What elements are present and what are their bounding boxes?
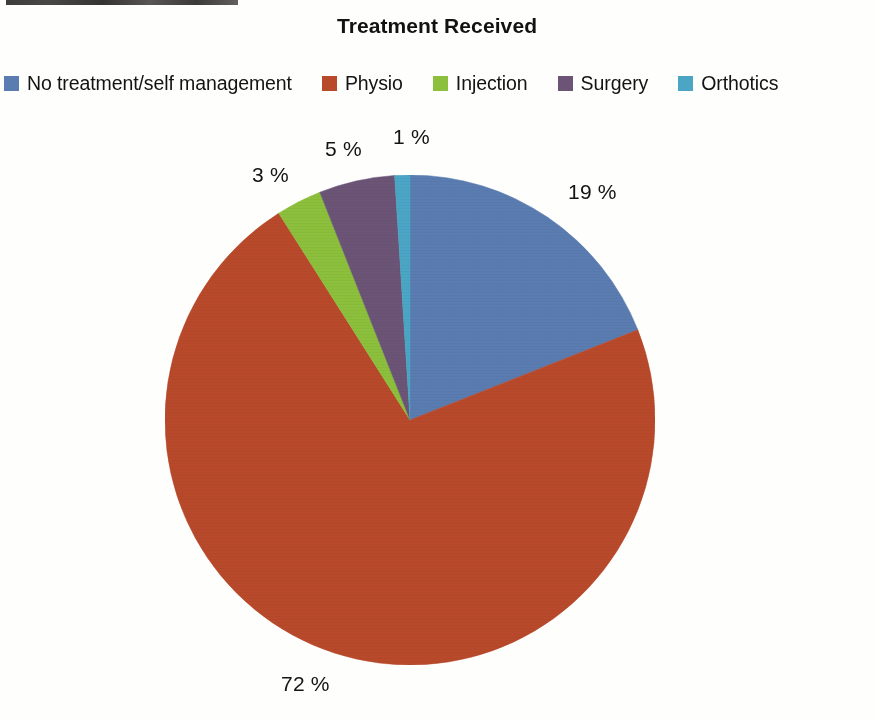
pie-chart-figure: Treatment Received No treatment/self man… xyxy=(0,0,874,719)
legend-swatch-physio xyxy=(322,76,337,91)
legend-item-injection[interactable]: Injection xyxy=(433,72,528,95)
data-label-injection: 3 % xyxy=(252,163,289,187)
chart-legend: No treatment/self management Physio Inje… xyxy=(0,72,874,95)
legend-item-surgery[interactable]: Surgery xyxy=(558,72,649,95)
legend-swatch-surgery xyxy=(558,76,573,91)
legend-swatch-no-treatment xyxy=(4,76,19,91)
legend-label-no-treatment: No treatment/self management xyxy=(27,72,292,95)
legend-label-injection: Injection xyxy=(456,72,528,95)
pie-plot-area xyxy=(165,175,655,665)
legend-swatch-injection xyxy=(433,76,448,91)
pie-svg xyxy=(165,175,655,665)
scan-edge-artifact xyxy=(6,0,238,5)
legend-label-physio: Physio xyxy=(345,72,403,95)
legend-item-orthotics[interactable]: Orthotics xyxy=(678,72,778,95)
data-label-physio: 72 % xyxy=(281,672,330,696)
legend-item-physio[interactable]: Physio xyxy=(322,72,403,95)
pie-slice-group xyxy=(165,175,655,665)
chart-title: Treatment Received xyxy=(0,14,874,38)
data-label-surgery: 5 % xyxy=(325,137,362,161)
data-label-no-treatment: 19 % xyxy=(568,180,617,204)
legend-label-surgery: Surgery xyxy=(581,72,649,95)
legend-item-no-treatment[interactable]: No treatment/self management xyxy=(4,72,292,95)
legend-label-orthotics: Orthotics xyxy=(701,72,778,95)
data-label-orthotics: 1 % xyxy=(393,125,430,149)
legend-swatch-orthotics xyxy=(678,76,693,91)
